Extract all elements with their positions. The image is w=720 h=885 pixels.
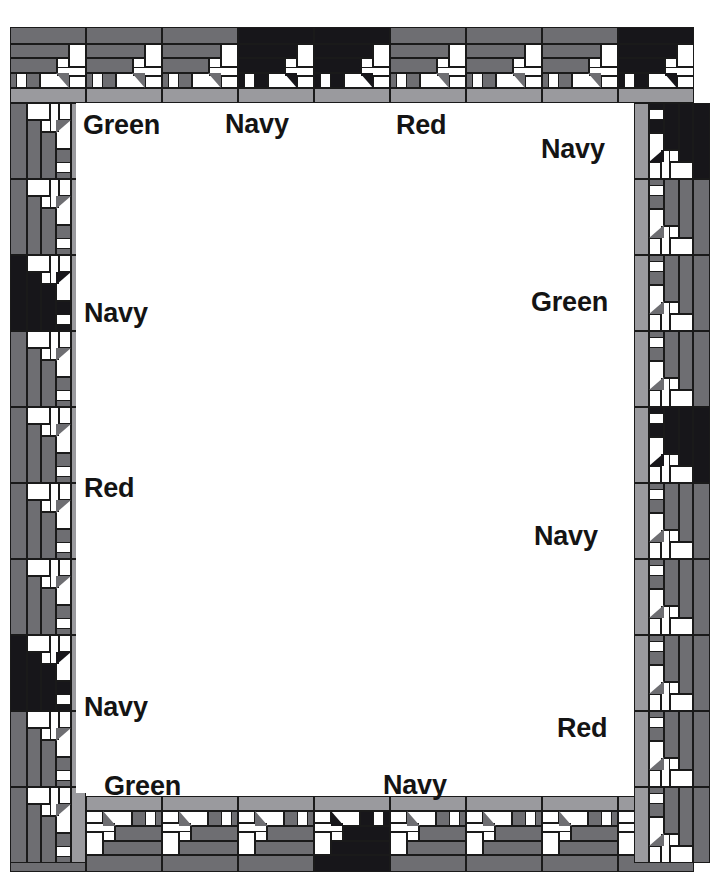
label-bottom-green: Green — [104, 773, 181, 800]
quilt-log — [59, 559, 71, 576]
quilt-log — [314, 855, 390, 872]
quilt-log — [390, 832, 407, 855]
quilt-log — [624, 73, 635, 88]
quilt-log — [59, 635, 71, 652]
quilt-log — [693, 179, 710, 255]
quilt-log — [86, 832, 103, 855]
quilt-log — [618, 88, 694, 103]
quilt-log — [27, 103, 50, 120]
quilt-log — [27, 483, 50, 500]
quilt-log — [396, 73, 407, 88]
quilt-log — [162, 811, 179, 823]
quilt-log — [10, 44, 69, 58]
quilt-log — [41, 284, 55, 331]
quilt-log — [693, 255, 710, 331]
quilt-block — [162, 796, 238, 872]
quilt-block — [314, 27, 390, 103]
quilt-center-field — [76, 103, 624, 793]
quilt-log — [649, 770, 661, 787]
quilt-log — [86, 811, 103, 823]
quilt-accent-triangle — [56, 424, 71, 437]
quilt-log — [670, 390, 693, 407]
quilt-log — [679, 407, 693, 466]
quilt-log — [390, 27, 466, 44]
quilt-log — [693, 787, 710, 863]
quilt-log — [56, 542, 71, 553]
quilt-log — [27, 255, 50, 272]
quilt-block — [10, 787, 86, 863]
quilt-log — [320, 73, 331, 88]
quilt-log — [27, 120, 41, 179]
quilt-log — [670, 770, 693, 787]
quilt-log — [27, 196, 41, 255]
quilt-log — [664, 331, 678, 378]
quilt-log — [679, 255, 693, 314]
quilt-log — [679, 787, 693, 846]
quilt-log — [162, 58, 209, 72]
quilt-log — [191, 826, 238, 840]
quilt-log — [679, 711, 693, 770]
quilt-log — [145, 76, 162, 88]
quilt-block — [10, 179, 86, 255]
quilt-log — [634, 635, 649, 711]
quilt-accent-triangle — [649, 605, 664, 618]
quilt-log — [10, 103, 27, 179]
quilt-block — [10, 103, 86, 179]
quilt-log — [559, 841, 618, 855]
quilt-log — [466, 44, 525, 58]
quilt-log — [670, 466, 693, 483]
quilt-log — [542, 855, 618, 872]
quilt-log — [59, 103, 71, 120]
label-left-navy-upper: Navy — [84, 300, 148, 327]
quilt-log — [649, 238, 661, 255]
quilt-accent-triangle — [649, 681, 664, 694]
quilt-log — [542, 44, 601, 58]
quilt-log — [618, 58, 665, 72]
quilt-log — [664, 635, 678, 682]
quilt-block — [162, 27, 238, 103]
quilt-log — [162, 27, 238, 44]
quilt-log — [601, 76, 618, 88]
quilt-log — [390, 58, 437, 72]
quilt-log — [679, 179, 693, 238]
quilt-log — [548, 73, 559, 88]
quilt-log — [27, 652, 41, 711]
quilt-accent-triangle — [649, 301, 664, 314]
quilt-block — [390, 796, 466, 872]
quilt-log — [649, 390, 661, 407]
label-right-green: Green — [531, 289, 608, 316]
quilt-log — [634, 407, 649, 483]
quilt-log — [373, 811, 384, 826]
quilt-log — [466, 832, 483, 855]
quilt-log — [649, 618, 661, 635]
quilt-log — [649, 162, 661, 179]
quilt-log — [69, 76, 86, 88]
label-top-green: Green — [83, 112, 160, 139]
label-topright-navy: Navy — [541, 136, 605, 163]
quilt-accent-triangle — [56, 196, 71, 209]
quilt-log — [297, 44, 314, 67]
quilt-log — [59, 331, 71, 348]
quilt-log — [41, 588, 55, 635]
quilt-log — [542, 796, 618, 811]
quilt-log — [649, 314, 661, 331]
quilt-block — [238, 796, 314, 872]
quilt-log — [664, 179, 678, 226]
quilt-log — [466, 58, 513, 72]
quilt-accent-triangle — [56, 348, 71, 361]
quilt-accent-triangle — [649, 377, 664, 390]
quilt-log — [162, 44, 221, 58]
quilt-block — [634, 635, 710, 711]
quilt-log — [238, 796, 314, 811]
quilt-log — [664, 483, 678, 530]
quilt-log — [618, 27, 694, 44]
quilt-log — [10, 58, 57, 72]
quilt-log — [664, 255, 678, 302]
label-right-navy-lower: Navy — [534, 523, 598, 550]
label-left-navy-lower: Navy — [84, 694, 148, 721]
quilt-log — [238, 44, 297, 58]
quilt-log — [571, 826, 618, 840]
quilt-log — [27, 576, 41, 635]
quilt-log — [27, 804, 41, 863]
quilt-accent-triangle — [56, 576, 71, 589]
